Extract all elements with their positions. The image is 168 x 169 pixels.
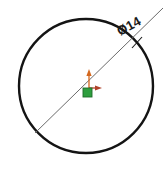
cad-drawing-canvas: Ø14 (0, 0, 168, 169)
origin-x-axis-arrowhead (95, 85, 102, 90)
origin-point-square[interactable] (83, 88, 92, 97)
circle-profile[interactable] (19, 19, 153, 153)
origin-y-axis-arrowhead (86, 69, 91, 76)
cad-drawing-svg: Ø14 (0, 0, 168, 169)
